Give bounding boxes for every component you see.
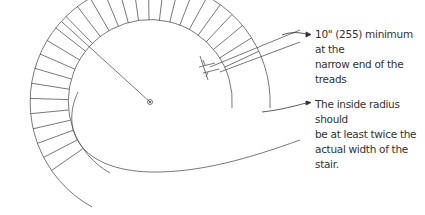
note-line: narrow end of the treads: [315, 57, 425, 87]
note-line: actual width of the stair.: [315, 142, 425, 172]
note-line: The inside radius should: [315, 97, 425, 127]
note-narrow-end: 10" (255) minimum at the narrow end of t…: [315, 27, 425, 87]
walkline-arc: [72, 92, 300, 172]
note-line: 10" (255) minimum at the: [315, 27, 425, 57]
note-inside-radius: The inside radius should be at least twi…: [315, 97, 425, 172]
outer-stair-edge: [30, 0, 270, 207]
radius-line: [62, 22, 150, 102]
note-line: be at least twice the: [315, 127, 425, 142]
tread-lines: [30, 0, 259, 171]
dimension-marks: [199, 56, 219, 80]
leader-line-1: [282, 33, 306, 35]
leader-line-2: [262, 103, 306, 112]
inner-stair-edge: [68, 20, 232, 173]
